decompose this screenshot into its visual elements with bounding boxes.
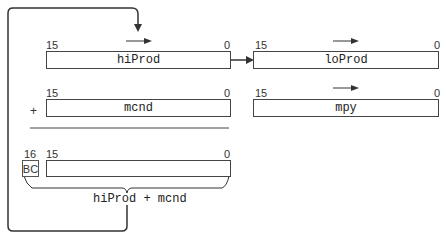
loProd-register-label: loProd: [324, 53, 367, 67]
feedback-arrow-head: [134, 24, 142, 32]
sum-register: [46, 160, 231, 177]
mcnd-register-label: mcnd: [124, 101, 153, 115]
shift-right-arrow-icon: [333, 38, 359, 44]
loProd-lsb-label: 0: [434, 40, 440, 51]
mcnd-msb-label: 15: [46, 88, 58, 99]
hiProd-to-loProd-arrow: [230, 56, 254, 64]
mcnd-lsb-label: 0: [224, 88, 230, 99]
mpy-msb-label: 15: [255, 88, 267, 99]
sum-lsb-label: 0: [224, 149, 230, 160]
carry-bit-box-label: BC: [23, 163, 38, 175]
hiProd-register-label: hiProd: [117, 53, 160, 67]
hiProd-msb-label: 15: [46, 40, 58, 51]
mpy-lsb-label: 0: [434, 88, 440, 99]
mpy-register-label: mpy: [335, 101, 357, 115]
plus-operator: +: [30, 106, 37, 117]
loProd-register: loProd: [253, 51, 439, 69]
shift-right-arrow-icon: [333, 85, 359, 91]
sum-label: hiProd + mcnd: [93, 194, 187, 205]
carry-bit-label: 16: [24, 149, 36, 160]
connector-lines: [0, 0, 447, 238]
sum-msb-label: 15: [46, 149, 58, 160]
sum-brace: [24, 176, 229, 193]
carry-bit-box: BC: [22, 160, 39, 177]
hiProd-register: hiProd: [46, 51, 231, 69]
loProd-msb-label: 15: [255, 40, 267, 51]
shift-add-multiply-diagram: 15 0 hiProd 15 0 loProd + 15 0 mcnd 15 0…: [0, 0, 447, 238]
hiProd-lsb-label: 0: [224, 40, 230, 51]
mpy-register: mpy: [253, 99, 439, 117]
mcnd-register: mcnd: [46, 99, 231, 117]
shift-right-arrow-icon: [126, 38, 152, 44]
